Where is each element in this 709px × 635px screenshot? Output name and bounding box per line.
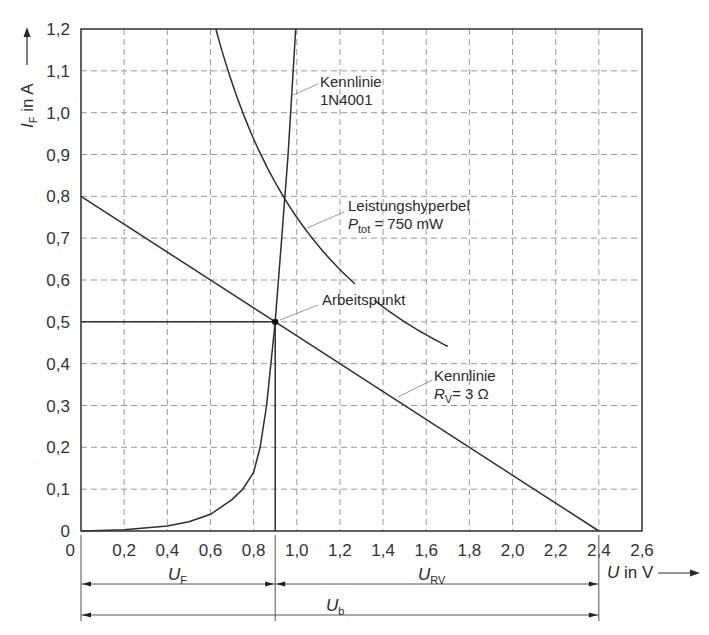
dim-uf-subscript: F: [180, 574, 187, 586]
diode-label-line2: 1N4001: [320, 91, 373, 108]
x-tick-label: 1,4: [371, 541, 395, 560]
dim-urv-subscript: RV: [430, 574, 446, 586]
y-tick-label: 0,9: [46, 146, 70, 165]
dim-ub-symbol: U: [326, 596, 339, 615]
y-axis-unit: in A: [18, 83, 37, 117]
dimension-arrow-start: [276, 582, 285, 587]
x-tick-label: 0,2: [112, 541, 136, 560]
x-axis-unit: in V: [619, 563, 654, 582]
x-axis-arrowhead: [690, 570, 700, 577]
dim-label-uf: UF: [168, 565, 187, 586]
x-tick-label: 0,6: [199, 541, 223, 560]
dim-label-urv: URV: [418, 565, 446, 586]
x-tick-label: 2,6: [630, 541, 654, 560]
y-tick-label: 0,4: [46, 355, 70, 374]
dim-ub-subscript: b: [338, 605, 344, 617]
load-line-label-rest: = 3 Ω: [452, 385, 489, 402]
x-tick-label: 1,0: [285, 541, 309, 560]
load-line-label-leader: [398, 380, 432, 397]
hyperbola-label-subscript: tot: [358, 223, 370, 235]
x-axis-symbol: U: [607, 563, 620, 582]
y-tick-label: 0,2: [46, 438, 70, 457]
x-tick-label: 0: [66, 541, 75, 560]
y-axis-label: IF in A: [18, 83, 39, 128]
y-tick-label: 1,2: [46, 20, 70, 39]
x-tick-label: 2,0: [501, 541, 525, 560]
x-tick-label: 1,8: [458, 541, 482, 560]
diode-label-line1: Kennlinie: [320, 73, 382, 90]
dim-urv-symbol: U: [418, 565, 431, 584]
load-line-label-symbol: R: [434, 385, 445, 402]
operating-point-label: Arbeitspunkt: [322, 291, 406, 308]
y-tick-label: 0,8: [46, 187, 70, 206]
y-tick-label: 0,5: [46, 313, 70, 332]
y-axis-arrowhead: [24, 27, 31, 37]
hyperbola-label-symbol: P: [348, 215, 358, 232]
y-tick-label: 1,0: [46, 104, 70, 123]
diode-operating-point-chart: 00,20,40,60,81,01,21,41,61,82,02,22,42,6…: [0, 0, 709, 635]
y-tick-label: 0,6: [46, 271, 70, 290]
x-tick-label: 1,2: [328, 541, 352, 560]
y-tick-label: 0,3: [46, 397, 70, 416]
x-tick-label: 2,2: [544, 541, 568, 560]
y-tick-label: 0: [61, 522, 70, 541]
hyperbola-label-line2: Ptot = 750 mW: [348, 215, 444, 235]
load-line-label-line2: RV= 3 Ω: [434, 385, 489, 405]
hyperbola-label-leader: [307, 212, 344, 228]
x-tick-label: 1,6: [414, 541, 438, 560]
x-tick-label: 0,4: [155, 541, 179, 560]
y-tick-label: 0,1: [46, 480, 70, 499]
power-hyperbola-upper: [216, 29, 355, 284]
hyperbola-label-line1: Leistungshyperbel: [348, 197, 470, 214]
dimension-arrow-start: [82, 582, 91, 587]
x-axis-label: U in V: [607, 563, 654, 582]
dimension-arrow-end: [265, 582, 274, 587]
svg-text:IF in A: IF in A: [18, 83, 39, 128]
hyperbola-label-rest: = 750 mW: [370, 215, 444, 232]
dimension-arrow-end: [589, 613, 598, 618]
dimension-arrow-end: [589, 582, 598, 587]
load-line-label-line1: Kennlinie: [434, 367, 496, 384]
y-tick-label: 0,7: [46, 229, 70, 248]
dimension-arrow-start: [82, 613, 91, 618]
dim-uf-symbol: U: [168, 565, 181, 584]
dim-label-ub: Ub: [326, 596, 344, 617]
y-tick-label: 1,1: [46, 62, 70, 81]
operating-point-leader: [280, 305, 318, 320]
x-tick-label: 0,8: [242, 541, 266, 560]
operating-point-marker: [272, 319, 278, 325]
